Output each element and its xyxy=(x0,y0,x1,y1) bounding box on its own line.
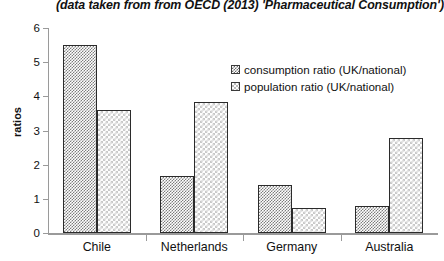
y-axis-tick-label: 1 xyxy=(18,193,40,205)
legend-label: population ratio (UK/national) xyxy=(244,80,394,93)
x-axis-tick-mark xyxy=(243,235,244,241)
y-axis-tick-label: 3 xyxy=(18,125,40,137)
x-axis-tick-label: Germany xyxy=(243,240,341,254)
x-axis-tick-label: Australia xyxy=(341,240,439,254)
y-axis-tick-label: 0 xyxy=(18,227,40,239)
y-axis-tick-label: 5 xyxy=(18,56,40,68)
y-axis-tick-label: 2 xyxy=(18,159,40,171)
bar-netherlands-series-1 xyxy=(194,102,228,233)
bar-australia-series-0 xyxy=(355,206,389,233)
bar-chile-series-1 xyxy=(97,110,131,233)
y-axis-tick-mark xyxy=(43,233,48,234)
chart-legend: consumption ratio (UK/national)populatio… xyxy=(231,62,406,96)
bar-netherlands-series-0 xyxy=(160,176,194,233)
x-axis-tick-label: Chile xyxy=(48,240,146,254)
bar-chile-series-0 xyxy=(63,45,97,233)
y-axis-tick-label: 6 xyxy=(18,22,40,34)
legend-label: consumption ratio (UK/national) xyxy=(244,63,406,76)
y-axis-tick-label: 4 xyxy=(18,90,40,102)
legend-swatch-icon xyxy=(231,65,240,74)
plot-area xyxy=(48,28,438,233)
legend-swatch-icon xyxy=(231,82,240,91)
x-axis-tick-mark xyxy=(341,235,342,241)
bar-australia-series-1 xyxy=(389,138,423,233)
x-axis-tick-label: Netherlands xyxy=(146,240,244,254)
x-axis-tick-mark xyxy=(146,235,147,241)
bar-germany-series-0 xyxy=(258,185,292,233)
legend-item-1: population ratio (UK/national) xyxy=(231,79,406,94)
legend-item-0: consumption ratio (UK/national) xyxy=(231,62,406,77)
chart-title: (data taken from from OECD (2013) 'Pharm… xyxy=(56,0,442,12)
bar-germany-series-1 xyxy=(292,208,326,233)
